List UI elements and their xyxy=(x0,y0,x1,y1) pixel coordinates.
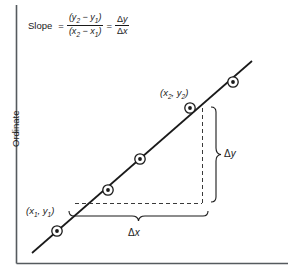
delta-x-symbol: Δ xyxy=(128,227,135,238)
plot-canvas xyxy=(0,0,292,269)
data-point-marker xyxy=(228,77,238,87)
equals-sign-1: = xyxy=(58,21,64,31)
y-axis-title: Ordinate xyxy=(11,94,21,164)
delta-x-variable: x xyxy=(135,227,140,238)
data-point-marker xyxy=(185,103,195,113)
point-2-label: (x2, y2) xyxy=(160,88,188,100)
p1-close: ) xyxy=(51,205,54,216)
equals-sign-2: = xyxy=(106,21,112,31)
delta-ratio-fraction: Δy Δx xyxy=(115,14,130,38)
p1-open: (x xyxy=(26,205,34,216)
delta-y-variable: y xyxy=(231,148,236,159)
delta-x-brace xyxy=(69,211,208,221)
p2-open: (x xyxy=(160,87,168,98)
delta-x-label: Δx xyxy=(128,228,140,238)
num-mid: − y xyxy=(80,12,95,22)
delta-y-brace xyxy=(211,107,221,202)
delta-y-label: Δy xyxy=(224,149,236,159)
p2-close: ) xyxy=(185,87,188,98)
p2-mid: , y xyxy=(172,87,182,98)
fraction-numerator: (y2 − y1) xyxy=(67,12,104,25)
num-close: ) xyxy=(98,12,101,22)
fraction-denominator: (x2 − x1) xyxy=(67,26,104,39)
difference-quotient-fraction: (y2 − y1) (x2 − x1) xyxy=(67,12,104,39)
delta-y-symbol: Δ xyxy=(224,148,231,159)
variable-y: y xyxy=(123,14,128,24)
variable-x: x xyxy=(123,26,128,36)
delta-y-numerator: Δy xyxy=(115,14,130,25)
den-close: ) xyxy=(98,26,101,36)
delta-x-denominator: Δx xyxy=(115,26,130,37)
slope-formula: Slope = (y2 − y1) (x2 − x1) = Δy Δx xyxy=(28,12,129,39)
den-mid: − x xyxy=(80,26,95,36)
slope-figure: Slope = (y2 − y1) (x2 − x1) = Δy Δx Ordi… xyxy=(0,0,292,269)
data-point-marker xyxy=(103,185,113,195)
p1-mid: , y xyxy=(38,205,48,216)
data-point-marker xyxy=(52,226,62,236)
data-point-marker xyxy=(135,154,145,164)
slope-word: Slope xyxy=(28,21,52,31)
point-1-label: (x1, y1) xyxy=(26,206,54,218)
